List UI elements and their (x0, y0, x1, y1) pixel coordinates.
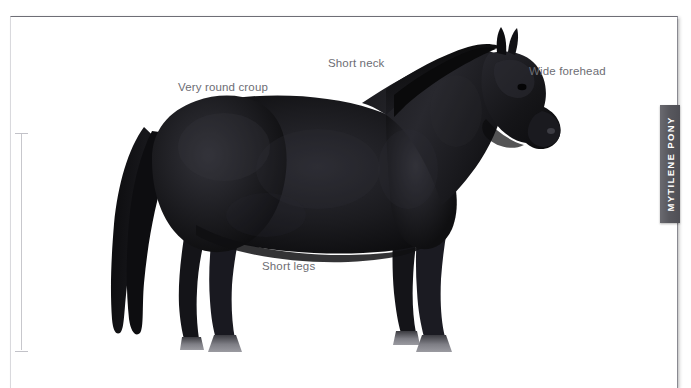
coat-sheen-neck (430, 75, 482, 147)
breed-name-tab-label: MYTILENE PONY (665, 116, 676, 211)
pony-ear-far (508, 28, 518, 55)
coat-sheen-flank (226, 193, 306, 237)
pony-hind-hoof-far (180, 337, 204, 350)
pony-hind-hoof-near (208, 335, 242, 352)
clipped-header-text: · · (0, 0, 691, 3)
pony-eye (518, 84, 527, 90)
pony-body-group (111, 27, 561, 352)
annotation-wide-forehead: Wide forehead (529, 65, 606, 77)
annotation-very-round-croup: Very round croup (178, 81, 268, 93)
height-measurement-rule (15, 132, 29, 352)
coat-sheen-shoulder (378, 129, 438, 209)
pony-nostril (547, 128, 555, 134)
breed-name-tab: MYTILENE PONY (660, 105, 680, 223)
pony-fore-hoof-near (416, 335, 452, 352)
pony-fore-hoof-far (393, 331, 420, 345)
figure-frame: Very round croup Short neck Wide forehea… (10, 16, 678, 388)
pony-ear-near (497, 27, 507, 55)
measure-cap-bottom (15, 351, 28, 352)
annotation-short-neck: Short neck (328, 57, 384, 69)
measure-shaft (21, 134, 22, 350)
annotation-short-legs: Short legs (262, 260, 315, 272)
